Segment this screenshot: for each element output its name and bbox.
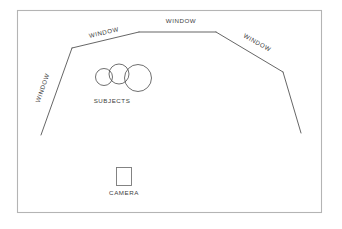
floor-plan-svg: WINDOW WINDOW WINDOW WINDOW SUBJECTS CAM… xyxy=(0,0,342,229)
diagram-frame xyxy=(18,11,322,213)
label-subjects: SUBJECTS xyxy=(94,97,131,104)
label-window-top-center: WINDOW xyxy=(166,17,196,24)
camera-box xyxy=(117,168,132,186)
label-camera: CAMERA xyxy=(109,189,139,196)
diagram-canvas: WINDOW WINDOW WINDOW WINDOW SUBJECTS CAM… xyxy=(0,0,342,229)
